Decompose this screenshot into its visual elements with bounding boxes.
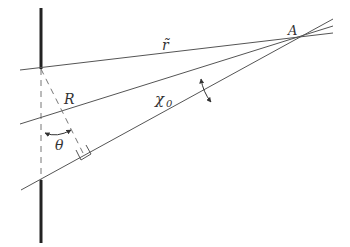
ray-middle: [20, 26, 333, 124]
label-theta: θ: [55, 137, 64, 153]
theta-arc: [45, 130, 71, 135]
label-R: R: [63, 91, 75, 107]
ray-top-r-tilde: [20, 33, 333, 70]
diffraction-geometry-diagram: r̃ A R χ 0 θ: [0, 0, 350, 247]
label-chi-subscript: 0: [166, 98, 173, 109]
label-chi: χ: [154, 90, 165, 108]
label-A: A: [287, 23, 297, 38]
label-r-tilde: r̃: [162, 37, 170, 53]
